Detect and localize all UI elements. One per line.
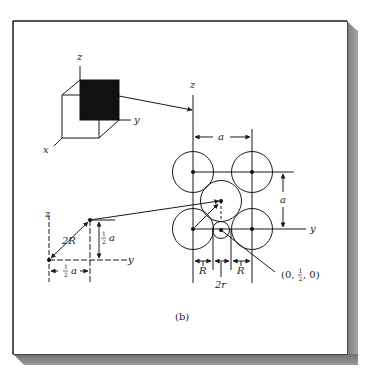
svg-text:2: 2	[102, 238, 106, 245]
cube-z-label: z	[76, 51, 83, 62]
point-label: (0, 1 2 , 0)	[281, 267, 320, 282]
svg-text:1: 1	[299, 267, 303, 274]
cube-x-label: x	[43, 144, 49, 155]
svg-text:2: 2	[299, 275, 303, 282]
triangle-z-label: z	[44, 208, 51, 219]
dimension-R-left: R	[198, 265, 207, 276]
triangle-y-label: y	[127, 254, 134, 265]
svg-text:(0,: (0,	[281, 269, 294, 280]
cube-y-label: y	[133, 114, 140, 125]
plane-y-label: y	[309, 223, 316, 234]
hypotenuse-label: 2R	[61, 235, 76, 246]
svg-text:, 0): , 0)	[303, 269, 320, 280]
dimension-2r: 2r	[214, 279, 227, 290]
dimension-a-right: a	[280, 194, 286, 205]
svg-text:1: 1	[102, 230, 106, 237]
figure-caption: (b)	[175, 311, 189, 322]
svg-text:a: a	[71, 265, 77, 276]
dimension-R-right: R	[236, 265, 245, 276]
plane-z-label: z	[189, 79, 196, 90]
svg-text:a: a	[109, 232, 115, 243]
dimension-a-top: a	[218, 131, 224, 142]
shaded-plane	[80, 80, 119, 120]
svg-text:1: 1	[64, 263, 68, 270]
svg-text:2: 2	[64, 271, 68, 278]
figure-canvas: z y x	[0, 0, 369, 384]
